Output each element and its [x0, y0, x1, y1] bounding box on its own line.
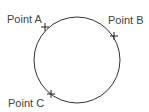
circle [34, 17, 120, 103]
point-c-marker [47, 90, 55, 98]
point-b-label: Point B [108, 14, 143, 26]
point-c-label: Point C [8, 97, 44, 109]
point-a-label: Point A [7, 13, 42, 25]
point-a-marker [41, 23, 49, 31]
